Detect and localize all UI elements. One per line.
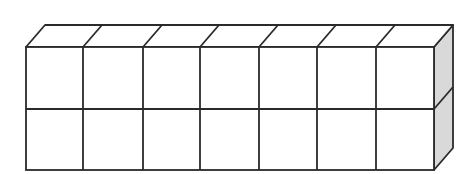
prism-svg <box>0 0 459 174</box>
front-face <box>26 47 434 170</box>
side-face <box>434 25 453 170</box>
top-face <box>26 25 453 47</box>
cube-prism-diagram <box>0 0 459 174</box>
top-face-fill <box>26 25 453 47</box>
